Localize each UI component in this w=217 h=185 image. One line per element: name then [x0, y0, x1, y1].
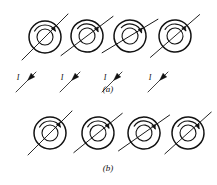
dipole-b-1 — [28, 111, 72, 155]
panel-b — [28, 108, 211, 159]
figure-container: (a) (b) IIII — [0, 0, 217, 185]
current-label-2: I — [58, 73, 66, 82]
dipole-axis-line — [61, 10, 113, 62]
dipole-b-4 — [165, 110, 211, 156]
dipole-b-3 — [119, 108, 170, 159]
dipole-a-2 — [61, 10, 113, 62]
current-label-1: I — [14, 73, 22, 82]
dipole-b-2 — [74, 109, 122, 157]
dipole-axis-line — [119, 108, 170, 159]
rotation-arc — [165, 23, 186, 30]
current-label-4: I — [146, 73, 154, 82]
panel-caption-b: (b) — [88, 163, 128, 173]
dipole-axis-line — [74, 109, 122, 157]
dipole-a-1 — [22, 14, 68, 60]
dipole-axis-line — [102, 8, 158, 64]
current-label-3: I — [101, 73, 109, 82]
panel-caption-a: (a) — [88, 84, 128, 94]
dipole-a-3 — [102, 8, 158, 64]
